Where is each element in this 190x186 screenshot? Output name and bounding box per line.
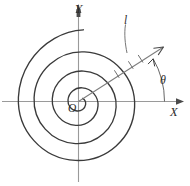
radial-ray-line [79,47,164,102]
angle-label: θ [160,74,166,86]
radial-ray [79,47,164,102]
spiral-path [18,30,134,161]
leader-line-path [125,25,127,54]
ray-label: l [124,15,127,27]
angle-arc-arrowhead [148,59,154,66]
figure-canvas [0,0,190,186]
ray-label-leader [125,25,127,54]
origin-label: O [68,103,76,115]
y-axis-label: Y [75,3,82,16]
archimedean-spiral [18,30,134,161]
x-axis [2,98,184,104]
x-axis-arrowhead [176,98,184,104]
x-axis-label: X [170,106,178,119]
spiral-figure: Y X O l θ [0,0,190,186]
